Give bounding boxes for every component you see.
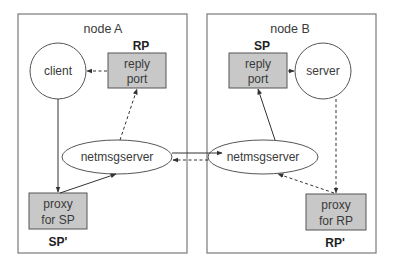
client-label: client [44,64,73,78]
reply-port-rp-line1: reply [124,57,150,71]
node-b-title: node B [270,22,310,36]
netmsgserver-b-label: netmsgserver [227,150,300,164]
netmsgserver-a: netmsgserver [62,140,172,174]
client: client [30,43,86,99]
rp-tag: RP [133,39,150,53]
node-a: node A client RP reply port netmsgserver… [18,14,187,253]
proxy-for-sp-line2: for SP [41,213,74,227]
netmsgserver-b: netmsgserver [208,140,318,174]
server-label: server [306,64,339,78]
ipc-diagram: node A client RP reply port netmsgserver… [0,0,393,270]
rp-prime-tag: RP' [325,236,345,250]
proxy-for-sp-line1: proxy [43,197,72,211]
server: server [295,43,351,99]
netmsgserver-a-label: netmsgserver [81,150,154,164]
node-a-title: node A [84,22,124,36]
reply-port-sp-line2: port [248,72,269,86]
proxy-for-rp-line1: proxy [321,198,350,212]
sp-prime-tag: SP' [49,235,68,249]
proxy-for-rp-line2: for RP [319,214,353,228]
reply-port-rp-line2: port [127,72,148,86]
reply-port-sp-line1: reply [245,57,271,71]
node-b: node B SP reply port server netmsgserver… [207,14,376,253]
sp-tag: SP [254,39,270,53]
